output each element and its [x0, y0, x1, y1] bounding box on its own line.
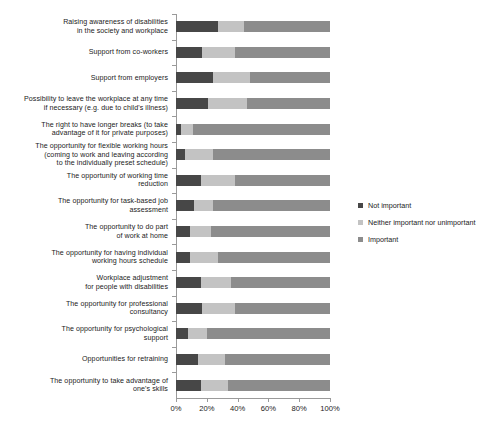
- bar-segment: [201, 380, 229, 391]
- y-axis-tick: [172, 142, 176, 143]
- x-axis-tick-label: 20%: [199, 404, 214, 413]
- legend-label-important: Important: [368, 235, 398, 244]
- bar-segment: [190, 226, 212, 237]
- category-label: Workplace adjustment for people with dis…: [0, 274, 168, 291]
- category-label: Support from co-workers: [0, 48, 168, 57]
- x-axis-tick: [268, 398, 269, 402]
- x-axis-tick: [299, 398, 300, 402]
- chart-row: The opportunity for psychological suppor…: [176, 321, 330, 347]
- legend-swatch-important: [358, 237, 363, 242]
- chart-row: The opportunity to do part of work at ho…: [176, 219, 330, 245]
- bar-segment: [176, 175, 201, 186]
- bar-segment: [176, 72, 213, 83]
- bar-segment: [202, 47, 234, 58]
- stacked-bar: [176, 380, 330, 391]
- chart-row: The opportunity for flexible working hou…: [176, 142, 330, 168]
- category-label: The opportunity for having individual wo…: [0, 249, 168, 266]
- chart-row: Possibility to leave the workplace at an…: [176, 91, 330, 117]
- bar-segment: [176, 226, 190, 237]
- legend-swatch-neither-important-nor-unimportant: [358, 220, 363, 225]
- chart-row: The opportunity for task-based job asses…: [176, 193, 330, 219]
- bar-segment: [176, 380, 201, 391]
- bar-segment: [176, 98, 208, 109]
- chart-row: Opportunities for retraining: [176, 347, 330, 373]
- chart-row: The opportunity for having individual wo…: [176, 244, 330, 270]
- bar-segment: [225, 354, 330, 365]
- x-axis-line: [176, 398, 330, 399]
- stacked-bar: [176, 277, 330, 288]
- plot-area: Raising awareness of disabilities in the…: [176, 14, 330, 398]
- stacked-bar: [176, 303, 330, 314]
- bar-segment: [250, 72, 330, 83]
- x-axis-tick-label: 0%: [171, 404, 182, 413]
- x-axis-tick-label: 80%: [292, 404, 307, 413]
- x-axis-tick-label: 60%: [261, 404, 276, 413]
- bar-segment: [213, 72, 250, 83]
- chart-row: The opportunity of working time reductio…: [176, 168, 330, 194]
- bar-segment: [235, 303, 330, 314]
- y-axis-tick: [172, 116, 176, 117]
- bar-segment: [235, 175, 330, 186]
- category-label: The opportunity for flexible working hou…: [0, 142, 168, 168]
- y-axis-tick: [172, 40, 176, 41]
- stacked-bar: [176, 200, 330, 211]
- stacked-bar: [176, 328, 330, 339]
- bar-segment: [211, 226, 330, 237]
- x-axis-tick: [207, 398, 208, 402]
- y-axis-tick: [172, 14, 176, 15]
- chart-row: Raising awareness of disabilities in the…: [176, 14, 330, 40]
- bar-segment: [194, 200, 212, 211]
- bar-segment: [185, 149, 213, 160]
- x-axis-tick-label: 100%: [320, 404, 339, 413]
- category-label: The right to have longer breaks (to take…: [0, 121, 168, 138]
- bar-segment: [176, 21, 218, 32]
- chart-row: The opportunity to take advantage of one…: [176, 372, 330, 398]
- chart-legend: Not important Neither important nor unim…: [358, 199, 475, 250]
- bar-segment: [244, 21, 330, 32]
- stacked-bar: [176, 98, 330, 109]
- bar-segment: [190, 252, 218, 263]
- bar-segment: [202, 303, 234, 314]
- y-axis-tick: [172, 296, 176, 297]
- category-label: Raising awareness of disabilities in the…: [0, 18, 168, 35]
- bar-segment: [176, 149, 185, 160]
- y-axis-tick: [172, 219, 176, 220]
- category-label: Possibility to leave the workplace at an…: [0, 95, 168, 112]
- bar-segment: [231, 277, 330, 288]
- bar-segment: [201, 277, 232, 288]
- bar-segment: [207, 328, 330, 339]
- chart-row: The right to have longer breaks (to take…: [176, 116, 330, 142]
- bar-segment: [176, 200, 194, 211]
- bar-segment: [176, 252, 190, 263]
- stacked-bar: [176, 175, 330, 186]
- y-axis-tick: [172, 270, 176, 271]
- category-label: The opportunity of working time reductio…: [0, 172, 168, 189]
- bar-segment: [247, 98, 330, 109]
- bar-segment: [218, 252, 330, 263]
- bar-segment: [176, 328, 188, 339]
- legend-swatch-not-important: [358, 203, 363, 208]
- stacked-bar: [176, 72, 330, 83]
- bar-segment: [193, 124, 330, 135]
- y-axis-tick: [172, 372, 176, 373]
- category-label: Support from employers: [0, 74, 168, 83]
- stacked-bar: [176, 226, 330, 237]
- legend-label-not-important: Not important: [368, 201, 411, 210]
- y-axis-tick: [172, 244, 176, 245]
- chart-row: Support from co-workers: [176, 40, 330, 66]
- legend-label-neither-important-nor-unimportant: Neither important nor unimportant: [368, 218, 475, 227]
- legend-item-important: Important: [358, 233, 475, 246]
- stacked-bar: [176, 47, 330, 58]
- y-axis-tick: [172, 168, 176, 169]
- y-axis-tick: [172, 65, 176, 66]
- category-label: The opportunity for psychological suppor…: [0, 325, 168, 342]
- bar-segment: [181, 124, 193, 135]
- stacked-bar: [176, 149, 330, 160]
- category-label: Opportunities for retraining: [0, 355, 168, 364]
- stacked-bar: [176, 21, 330, 32]
- bar-segment: [198, 354, 226, 365]
- stacked-bar: [176, 252, 330, 263]
- legend-item-not-important: Not important: [358, 199, 475, 212]
- y-axis-tick: [172, 321, 176, 322]
- y-axis-tick: [172, 193, 176, 194]
